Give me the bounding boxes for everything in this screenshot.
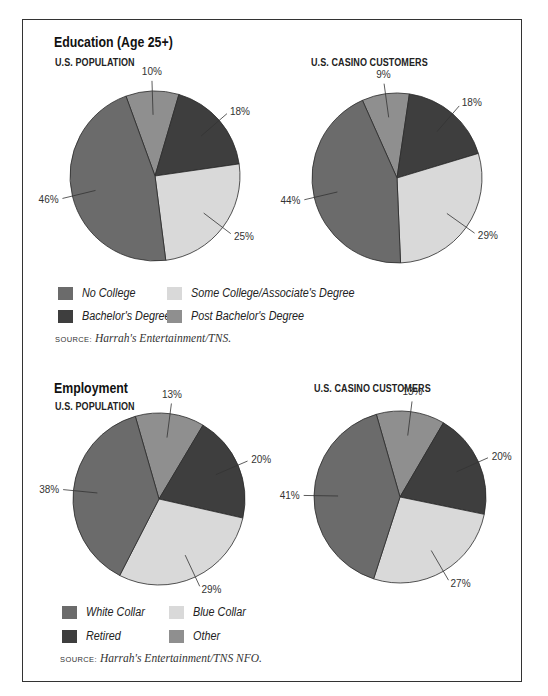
pie-percent-label: 38% (39, 484, 59, 495)
pie-percent-label: 46% (39, 194, 59, 205)
education-source: SOURCE: Harrah's Entertainment/TNS. (55, 332, 231, 344)
legend-label: Blue Collar (193, 605, 246, 619)
pie-percent-label: 44% (280, 195, 300, 206)
pie-percent-label: 9% (376, 69, 391, 80)
legend-label: Bachelor's Degree (82, 309, 171, 323)
pie-charts: 10%18%25%46%9%18%29%44%13%20%29%38%13%20… (0, 0, 548, 696)
legend-item-white-collar: White Collar (62, 605, 151, 619)
legend-swatch (169, 630, 184, 643)
legend-swatch (62, 606, 77, 619)
legend-item-bachelors: Bachelor's Degree (58, 309, 180, 323)
pie-chart-2: 9%18%29%44% (280, 69, 498, 263)
legend-item-retired: Retired (62, 629, 125, 643)
pie-slice-some-college (155, 164, 240, 260)
legend-swatch (169, 606, 184, 619)
pie-chart-4: 13%20%27%41% (280, 386, 512, 589)
legend-label: Other (193, 629, 220, 643)
pie-chart-1: 10%18%25%46% (39, 66, 254, 261)
legend-label: White Collar (86, 605, 145, 619)
pie-percent-label: 27% (451, 578, 471, 589)
employment-population-label: U.S. POPULATION (55, 401, 135, 412)
pie-percent-label: 18% (462, 97, 482, 108)
legend-swatch (58, 287, 73, 300)
legend-swatch (167, 287, 182, 300)
pie-percent-label: 41% (280, 490, 300, 501)
source-value: Harrah's Entertainment/TNS. (95, 332, 231, 344)
pie-percent-label: 10% (142, 66, 162, 77)
leader-line (304, 495, 338, 496)
pie-percent-label: 29% (201, 584, 221, 595)
legend-item-other: Other (169, 629, 223, 643)
source-value: Harrah's Entertainment/TNS NFO. (100, 652, 262, 664)
employment-title: Employment (54, 380, 128, 396)
legend-item-some-college: Some College/Associate's Degree (167, 286, 373, 300)
legend-item-post-bachelors: Post Bachelor's Degree (167, 309, 317, 323)
legend-label: Retired (86, 629, 121, 643)
pie-percent-label: 20% (251, 454, 271, 465)
pie-percent-label: 25% (234, 231, 254, 242)
source-key: SOURCE: (60, 655, 97, 664)
legend-swatch (167, 310, 182, 323)
legend-item-blue-collar: Blue Collar (169, 605, 252, 619)
pie-percent-label: 20% (492, 451, 512, 462)
legend-item-no-college: No College (58, 286, 141, 300)
pie-percent-label: 13% (162, 389, 182, 400)
employment-casino-label: U.S. CASINO CUSTOMERS (314, 383, 431, 394)
legend-swatch (62, 630, 77, 643)
legend-label: No College (82, 286, 135, 300)
pie-chart-3: 13%20%29%38% (39, 389, 271, 596)
employment-source: SOURCE: Harrah's Entertainment/TNS NFO. (60, 652, 262, 664)
pie-percent-label: 18% (230, 106, 250, 117)
pie-percent-label: 29% (478, 230, 498, 241)
source-key: SOURCE: (55, 335, 92, 344)
legend-swatch (58, 310, 73, 323)
legend-label: Some College/Associate's Degree (191, 286, 355, 300)
legend-label: Post Bachelor's Degree (191, 309, 304, 323)
